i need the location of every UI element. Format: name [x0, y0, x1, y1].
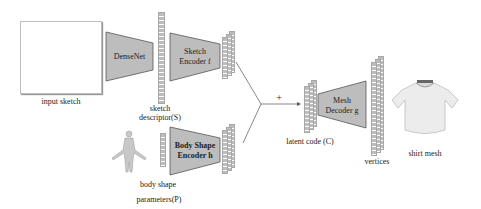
- input-sketch-label: input sketch: [20, 97, 102, 106]
- sketch-descriptor-label-2: descriptor(S): [130, 113, 190, 122]
- sketch-encoder-label-1: Sketch: [170, 47, 220, 57]
- latent-code-label: latent code (C): [280, 137, 340, 146]
- vertices-stack-1: [371, 62, 377, 156]
- mesh-decoder-label-1: Mesh: [318, 96, 366, 106]
- body-shape-encoder-label-1: Body Shape: [170, 141, 220, 151]
- shirt-mesh-icon: [392, 80, 458, 134]
- sketch-descriptor-label-1: sketch: [135, 104, 185, 113]
- latent-code-stack-1: [304, 86, 310, 133]
- body-shape-label-2: parameters(P): [124, 195, 194, 204]
- body-branch-line: [243, 104, 261, 143]
- body-shape-label-1: body shape: [128, 180, 188, 189]
- body-shape-encoder-label-2: Encoder h: [170, 151, 220, 161]
- densenet-label: DenseNet: [106, 52, 153, 62]
- sketch-feature-stack-1: [222, 37, 228, 79]
- vertices-label: vertices: [357, 157, 397, 166]
- combine-plus-symbol: +: [274, 93, 284, 102]
- sketch-branch-line: [236, 62, 261, 104]
- input-sketch-image: [20, 21, 102, 94]
- sketch-descriptor-vector: [158, 12, 165, 104]
- mesh-decoder-label-2: Decoder g: [318, 106, 366, 116]
- sketch-encoder-label-2: Encoder f: [170, 57, 220, 67]
- body-shape-parameters-vector: [160, 133, 166, 167]
- body-feature-stack-1: [222, 130, 228, 174]
- arrow-head-icon: [297, 102, 301, 106]
- shirt-mesh-label: shirt mesh: [400, 149, 450, 158]
- body-figure-icon: [112, 131, 146, 172]
